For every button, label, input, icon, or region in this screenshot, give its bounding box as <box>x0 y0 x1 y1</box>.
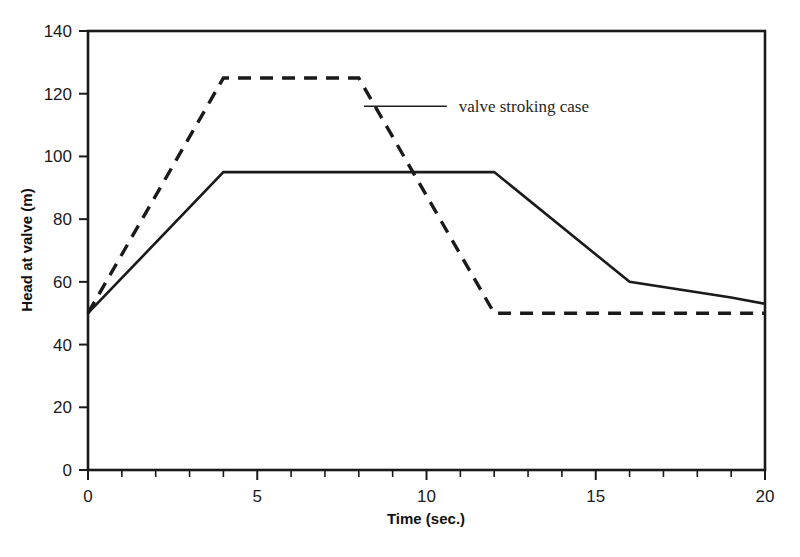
x-axis-title: Time (sec.) <box>387 510 465 527</box>
annotation-label: valve stroking case <box>459 97 589 116</box>
y-tick-label: 40 <box>53 336 72 355</box>
x-tick-label: 10 <box>417 487 436 506</box>
y-tick-label: 120 <box>44 85 72 104</box>
y-tick-label: 100 <box>44 147 72 166</box>
x-tick-label: 5 <box>253 487 262 506</box>
x-tick-label: 15 <box>586 487 605 506</box>
y-tick-label: 0 <box>63 461 72 480</box>
y-tick-label: 60 <box>53 273 72 292</box>
y-tick-label: 140 <box>44 22 72 41</box>
x-tick-label: 0 <box>83 487 92 506</box>
head-at-valve-time-chart: 020406080100120140 05101520 valve stroki… <box>0 0 800 557</box>
y-tick-label: 20 <box>53 398 72 417</box>
x-tick-label: 20 <box>756 487 775 506</box>
y-tick-label: 80 <box>53 210 72 229</box>
y-axis-title: Head at valve (m) <box>18 188 35 311</box>
chart-page: 020406080100120140 05101520 valve stroki… <box>0 0 800 557</box>
